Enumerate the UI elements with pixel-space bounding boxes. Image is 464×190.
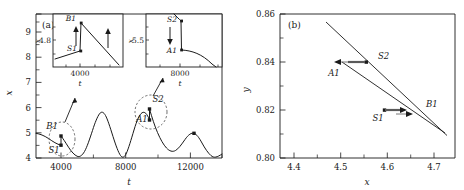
panel-a-ytick-8: 8 [26,52,31,62]
inset-2-marker-s2 [180,20,183,23]
panel-b-label-a1: A1 [327,68,340,78]
panel-b-label: (b) [288,20,301,30]
panel-a-callout-ellipse-2 [135,95,167,129]
panel-b-xtick-45: 4.5 [334,162,348,172]
panel-a-ylabel: x [4,90,14,95]
panel-a-callout-arrow-1 [65,98,77,122]
panel-a-marker-s2 [148,107,151,110]
panel-a-xtick-12000: 12000 [177,162,204,172]
panel-a-xtick-4000: 4000 [50,162,72,172]
inset-1-label-b1: B1 [65,14,76,23]
panel-a-marker-b1 [59,134,62,137]
panel-a-marker-a1 [148,118,151,121]
inset-1-marker-b1 [80,22,83,25]
panel-b-ytick-082: 0.82 [256,105,275,115]
panel-b-upper-branch [326,22,447,136]
inset-2-frame [146,14,222,67]
panel-b-y-ticks [280,14,286,158]
panel-b: 0.80 0.82 0.84 0.86 y 4.4 4.5 4.6 4.7 x … [241,9,455,187]
panel-a-ytick-9: 9 [26,27,31,37]
inset-2-label-a1: A1 [166,46,177,55]
panel-b-arrow-s2-to-a1 [334,59,365,65]
panel-a-marker-extra [192,132,195,135]
inset-1-marker-s1 [79,50,82,53]
panel-b-label-s1: S1 [372,113,383,123]
panel-b-lower-branch [342,62,445,133]
panel-a-inset-2: 5.5 x 8000 t S2 A1 [126,14,222,88]
inset-1-frame [53,14,123,67]
panel-a-xlabel: t [127,177,131,187]
inset-2-jump-down [181,21,182,50]
panel-b-xtick-47: 4.7 [427,162,441,172]
panel-a-label-b1: B1 [45,121,58,131]
panel-a-marker-s1 [59,144,62,147]
panel-b-xtick-44: 4.4 [287,162,301,172]
panel-b-x-ticks [294,153,434,159]
panel-a: 4 5 6 7 8 9 x 4000 8000 12000 t (a) [4,14,222,187]
panel-b-label-b1: B1 [425,99,438,109]
panel-a-ytick-6: 6 [26,103,31,113]
panel-b-ylabel: y [241,87,251,94]
panel-b-marker-s2 [365,60,368,63]
panel-b-ytick-084: 0.84 [256,57,275,67]
panel-b-xtick-46: 4.6 [381,162,395,172]
inset-1-xtick: 4000 [70,69,89,78]
panel-b-ytick-086: 0.86 [256,9,275,19]
panel-a-xtick-8000: 8000 [115,162,137,172]
panel-a-ytick-4: 4 [26,153,31,163]
panel-b-label-s2: S2 [378,51,389,61]
figure-root: 4 5 6 7 8 9 x 4000 8000 12000 t (a) [0,0,464,190]
inset-2-marker-a1 [180,49,183,52]
panel-a-label-a1: A1 [135,114,148,124]
panel-b-xlabel: x [364,177,369,187]
inset-2-label-s2: S2 [167,15,177,24]
panel-b-ytick-080: 0.80 [256,153,275,163]
panel-a-callout-ellipse-1 [49,122,75,156]
inset-2-xtick: 8000 [170,69,189,78]
panel-a-ytick-5: 5 [26,128,31,138]
panel-a-label: (a) [42,20,54,30]
panel-a-x-ticks [61,153,222,159]
figure-canvas: 4 5 6 7 8 9 x 4000 8000 12000 t (a) [0,0,464,190]
inset-1-xlabel: t [78,79,82,88]
inset-2-xlabel: t [178,79,182,88]
panel-b-frame [280,14,455,158]
panel-a-ytick-7: 7 [26,77,31,87]
